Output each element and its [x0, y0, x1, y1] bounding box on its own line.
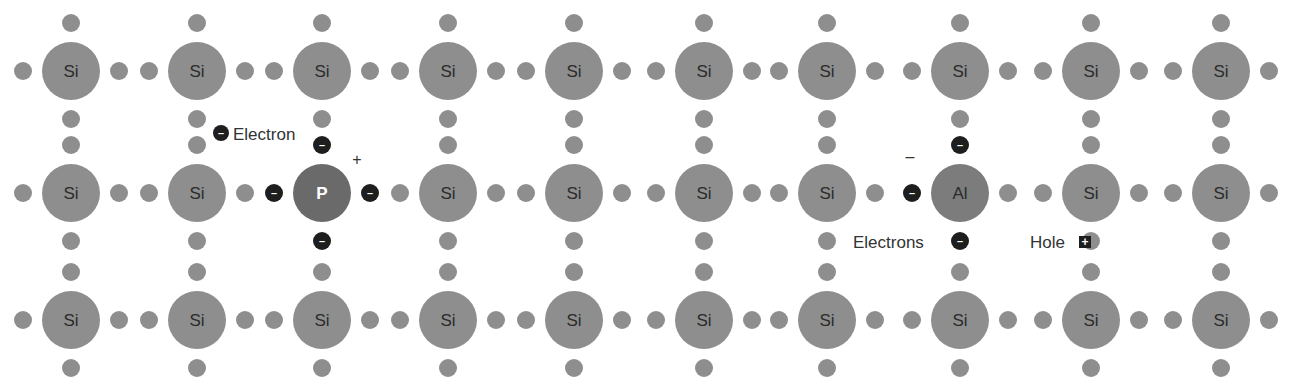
bond-electron-dot: [1130, 311, 1148, 329]
bond-electron-dot: [517, 184, 535, 202]
bond-electron-dot: [565, 14, 583, 32]
bond-electron-dot: [62, 263, 80, 281]
minus-icon: –: [367, 187, 373, 199]
bond-electron-dot: [743, 62, 761, 80]
atom-symbol: Si: [189, 62, 204, 81]
bond-electron-dot: [1260, 62, 1278, 80]
atom-si: Si: [42, 291, 100, 349]
bond-electron-dot: [188, 14, 206, 32]
bond-electron-dot: [818, 359, 836, 377]
atom-symbol: P: [316, 184, 327, 203]
atom-symbol: Si: [819, 311, 834, 330]
bond-electron-dot: [188, 263, 206, 281]
plus-icon: +: [1081, 235, 1088, 249]
bond-electron-dot: [647, 62, 665, 80]
bond-electron-dot: [439, 136, 457, 154]
bond-electron-dot: [313, 359, 331, 377]
bond-electron-dot: [1260, 184, 1278, 202]
atom-si: Si: [168, 291, 226, 349]
bond-electron-dot: [903, 311, 921, 329]
atom-symbol: Si: [440, 62, 455, 81]
minus-icon: –: [957, 139, 963, 151]
bond-electron-dot: [517, 62, 535, 80]
bond-electron-dot: [1212, 232, 1230, 250]
bond-electron-dot: [439, 263, 457, 281]
bond-electron-dot: [62, 136, 80, 154]
bond-electron-dot: [1164, 62, 1182, 80]
atom-symbol: Al: [952, 184, 967, 203]
bond-electron-dot: [1212, 110, 1230, 128]
bond-electron-dot: [647, 311, 665, 329]
bond-electron-dot: [14, 184, 32, 202]
bond-electron-dot: [265, 311, 283, 329]
bond-electron-dot: [695, 232, 713, 250]
atom-si: Si: [168, 164, 226, 222]
bond-electron-dot: [188, 359, 206, 377]
p-positive-charge-label: +: [352, 151, 361, 168]
bond-electron-dot: [818, 232, 836, 250]
bond-electron-dot: [695, 136, 713, 154]
atom-si: Si: [798, 42, 856, 100]
bond-electron-dot: [1034, 184, 1052, 202]
bond-electron-dot: [866, 311, 884, 329]
bond-electron-dot: [487, 184, 505, 202]
bond-electron-dot: [565, 232, 583, 250]
atom-si: Si: [42, 42, 100, 100]
bond-electron-dot: [391, 184, 409, 202]
bond-electron-dot: [313, 263, 331, 281]
semiconductor-lattice-diagram: SiSiSiSiSiSiSiSiSiSiSiSiPSiSiSiSiAlSiSiS…: [0, 0, 1291, 392]
bond-electron-dot: [770, 184, 788, 202]
atom-si: Si: [798, 291, 856, 349]
atom-si: Si: [1192, 42, 1250, 100]
bond-electron-dot: [951, 263, 969, 281]
bond-electron-dot: [487, 311, 505, 329]
bond-electron-dot: [62, 232, 80, 250]
atom-symbol: Si: [1213, 311, 1228, 330]
minus-icon: –: [909, 187, 915, 199]
bond-electron-dot: [565, 359, 583, 377]
bond-electron-dot: [110, 311, 128, 329]
electron-legend: – Electron: [213, 125, 295, 144]
atom-si: Si: [1062, 164, 1120, 222]
bond-electron-dot: [695, 263, 713, 281]
bond-electron-dot: [265, 62, 283, 80]
bond-electron-dot: [866, 62, 884, 80]
bond-electron-dot: [565, 110, 583, 128]
bond-electron-dot: [999, 184, 1017, 202]
minus-icon: –: [218, 127, 224, 139]
atom-si: Si: [293, 291, 351, 349]
minus-icon: –: [957, 235, 963, 247]
minus-icon: –: [319, 139, 325, 151]
bond-electron-dot: [62, 359, 80, 377]
bond-electron-dot: [62, 14, 80, 32]
bond-electron-dot: [818, 136, 836, 154]
atom-symbol: Si: [566, 184, 581, 203]
atom-si: Si: [1192, 164, 1250, 222]
bond-electron-dot: [110, 184, 128, 202]
atom-si: Si: [168, 42, 226, 100]
atom-symbol: Si: [63, 62, 78, 81]
bond-electron-dot: [391, 311, 409, 329]
bond-electron-dot: [487, 62, 505, 80]
bond-electron-dot: [439, 359, 457, 377]
bond-electron-dot: [743, 311, 761, 329]
atom-symbol: Si: [189, 184, 204, 203]
atom-symbol: Si: [1083, 184, 1098, 203]
bond-electron-dot: [517, 311, 535, 329]
atom-si: Si: [675, 164, 733, 222]
atom-symbol: Si: [1083, 62, 1098, 81]
atom-symbol: Si: [1213, 62, 1228, 81]
bond-electron-dot: [770, 62, 788, 80]
bond-electron-dot: [313, 110, 331, 128]
electrons-label: Electrons: [853, 233, 924, 252]
atom-symbol: Si: [314, 311, 329, 330]
atom-si: Si: [545, 291, 603, 349]
atom-symbol: Si: [696, 311, 711, 330]
bond-electron-dot: [1212, 263, 1230, 281]
bond-electron-dot: [951, 14, 969, 32]
atom-si: Si: [1062, 42, 1120, 100]
bond-electron-dot: [613, 184, 631, 202]
atom-symbol: Si: [189, 311, 204, 330]
bond-electron-dot: [1082, 14, 1100, 32]
bond-electron-dot: [1164, 311, 1182, 329]
